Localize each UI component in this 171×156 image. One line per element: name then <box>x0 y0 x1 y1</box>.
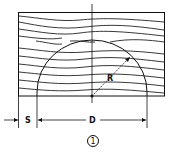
figure-number: 1 <box>91 137 96 146</box>
wood-cross-section-diagram: R S D 1 <box>0 0 171 156</box>
diameter-label: D <box>89 116 96 125</box>
radius-label: R <box>107 74 113 83</box>
spacing-label: S <box>25 116 31 125</box>
d-right-arrowhead <box>142 118 146 122</box>
s-arrowhead <box>14 118 18 122</box>
center-point <box>91 95 94 98</box>
wood-grain <box>19 16 164 93</box>
d-left-arrowhead <box>38 118 42 122</box>
